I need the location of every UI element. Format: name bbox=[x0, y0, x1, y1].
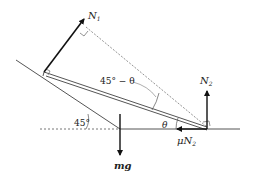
incline-line bbox=[16, 60, 120, 129]
friction-subscript: 2 bbox=[192, 140, 196, 147]
label-angle-diff: 45° − θ bbox=[100, 77, 135, 86]
friction-n-text: N bbox=[184, 135, 193, 146]
label-n1: N1 bbox=[88, 11, 101, 22]
label-angle-45: 45° bbox=[74, 119, 90, 128]
label-weight: mg bbox=[114, 161, 132, 171]
label-n2: N2 bbox=[200, 76, 213, 87]
n1-subscript: 1 bbox=[97, 15, 101, 22]
n1-arrow bbox=[44, 19, 84, 72]
label-angle-theta: θ bbox=[162, 121, 167, 130]
label-friction: μN2 bbox=[177, 136, 196, 147]
n2-text: N bbox=[200, 75, 209, 86]
diagram-svg bbox=[0, 0, 253, 187]
angle-arc-diff bbox=[152, 93, 159, 110]
angle-diff-leader bbox=[133, 82, 156, 97]
n2-subscript: 2 bbox=[209, 80, 213, 87]
n1-text: N bbox=[88, 10, 97, 21]
right-angle-mark-upper bbox=[80, 31, 88, 36]
diagram-canvas: N1 N2 μN2 mg 45° θ 45° − θ bbox=[0, 0, 253, 187]
